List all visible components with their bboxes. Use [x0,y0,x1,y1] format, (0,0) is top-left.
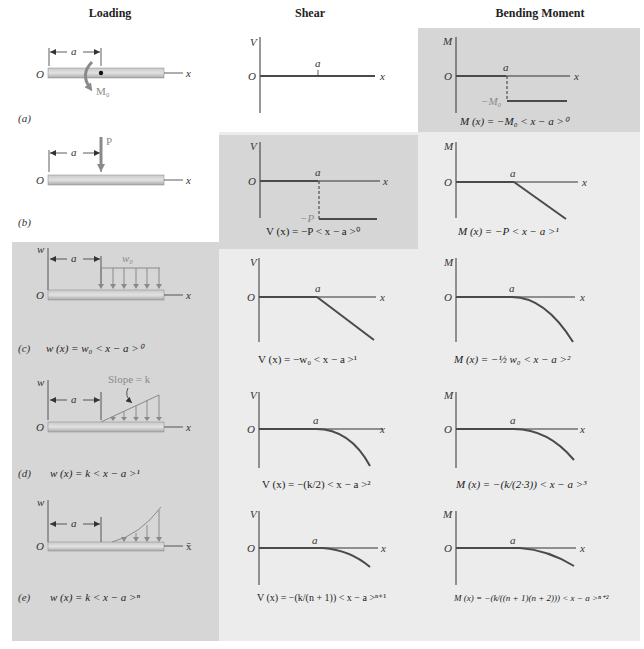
svg-text:a: a [510,167,516,179]
load-symbol-d: Slope = k [108,373,151,385]
loading-a: a x O M₀ (a) [18,45,191,125]
svg-text:M: M [442,35,453,47]
svg-text:M: M [442,508,453,520]
svg-text:w: w [37,243,45,255]
moment-plot-d: M O a x M (x) = −(k/(2·3)) < x − a >³ [443,389,587,491]
svg-text:V: V [250,256,258,268]
shear-plot-e: V O a x V (x) = −(k/(n + 1)) < x − a >ⁿ⁺… [247,508,386,604]
moment-eq-a: M (x) = −M₀ < x − a >⁰ [459,115,570,128]
moment-eq-b: M (x) = −P < x − a >¹ [457,225,559,238]
svg-text:O: O [247,423,255,435]
svg-text:V: V [250,508,258,520]
shear-eq-d: V (x) = −(k/2) < x − a >² [262,478,371,491]
svg-text:O: O [36,289,44,301]
shear-level-b: −P [300,212,314,224]
shear-plot-a: V O a x [248,36,385,113]
shear-eq-c: V (x) = −w₀ < x − a >¹ [258,353,357,366]
moment-plot-e: M O a x M (x) = −(k/((n + 1)(n + 2))) < … [442,508,609,603]
svg-text:x: x [581,176,587,188]
svg-text:M: M [443,389,454,401]
shear-eq-e: V (x) = −(k/(n + 1)) < x − a >ⁿ⁺¹ [257,592,386,604]
svg-text:x: x [379,291,385,303]
svg-text:x: x [185,174,191,186]
case-label-e: (e) [18,591,31,604]
svg-text:a: a [71,146,77,158]
svg-text:O: O [36,68,44,80]
x-bar-label: x̄ [186,540,192,552]
shear-plot-d: V O a x V (x) = −(k/2) < x − a >² [247,389,385,491]
svg-text:M: M [443,140,454,152]
svg-text:x: x [379,423,385,435]
svg-text:a: a [315,57,321,69]
svg-text:a: a [510,414,516,426]
svg-text:x: x [579,542,585,554]
svg-text:a: a [510,534,516,546]
load-symbol-c: w₀ [122,252,133,264]
shear-plot-b: V O a x −P V (x) = −P < x − a >⁰ [248,140,388,238]
svg-text:a: a [315,282,321,294]
svg-text:x: x [185,289,191,301]
loading-b: a P x O (b) [18,135,191,229]
svg-text:x: x [185,67,191,79]
svg-text:a: a [312,534,318,546]
case-label-a: (a) [18,112,31,125]
svg-text:x: x [579,423,585,435]
case-label-c: (c) [18,342,31,355]
case-label-d: (d) [18,467,31,480]
svg-text:x: x [380,542,386,554]
svg-text:O: O [444,542,452,554]
svg-text:O: O [247,291,255,303]
svg-text:O: O [247,542,255,554]
svg-text:O: O [444,70,452,82]
nonlinear-load-arrows-icon [124,510,159,541]
svg-text:V: V [250,36,258,48]
svg-text:O: O [444,423,452,435]
svg-text:O: O [36,421,44,433]
svg-text:x: x [379,70,385,82]
moment-plot-a: M O a x −M₀ M (x) = −M₀ < x − a >⁰ [442,35,579,128]
svg-text:V: V [250,389,258,401]
svg-text:V: V [250,140,258,152]
moment-eq-d: M (x) = −(k/(2·3)) < x − a >³ [455,478,587,491]
svg-text:O: O [36,174,44,186]
svg-text:a: a [313,414,319,426]
moment-eq-c: M (x) = −½ w₀ < x − a >² [453,353,571,366]
svg-text:a: a [509,282,515,294]
moment-level-a: −M₀ [481,95,502,107]
load-eq-d: w (x) = k < x − a >¹ [50,467,140,480]
shear-plot-c: V O a x V (x) = −w₀ < x − a >¹ [247,256,385,366]
loading-c: a w w₀ x O (c) w (x) = w₀ < x − a >⁰ [18,243,191,355]
svg-text:M: M [443,256,454,268]
load-eq-e: w (x) = k < x − a >ⁿ [50,591,141,604]
svg-text:O: O [36,540,44,552]
loading-d: a w Slope = k x O (d) w (x) = k < x − a … [18,373,191,480]
moment-plot-c: M O a x M (x) = −½ w₀ < x − a >² [443,256,585,366]
svg-text:a: a [315,166,321,178]
svg-text:a: a [503,61,509,73]
svg-text:x: x [185,421,191,433]
svg-text:a: a [71,517,77,529]
svg-text:w: w [37,376,45,388]
load-symbol-a: M₀ [96,85,110,97]
load-eq-c: w (x) = w₀ < x − a >⁰ [46,342,145,355]
svg-text:x: x [579,291,585,303]
distributed-load-arrows-icon [101,268,159,287]
moment-eq-e: M (x) = −(k/((n + 1)(n + 2))) < x − a >ⁿ… [453,593,609,603]
svg-text:w: w [37,496,45,508]
shear-eq-b: V (x) = −P < x − a >⁰ [266,225,361,238]
diagram-canvas: a x O M₀ (a) V O a x M O a x −M₀ M (x) =… [0,0,644,649]
svg-text:x: x [573,70,579,82]
case-label-b: (b) [18,216,31,229]
svg-text:a: a [71,393,77,405]
svg-text:O: O [248,175,256,187]
load-symbol-b: P [106,135,112,147]
svg-text:O: O [444,176,452,188]
loading-e: a w x̄ O (e) w (x) = k < x − a >ⁿ [18,496,192,604]
dim-a: a [71,45,77,57]
svg-text:a: a [71,252,77,264]
svg-text:x: x [382,175,388,187]
moment-plot-b: M O a x M (x) = −P < x − a >¹ [443,140,587,238]
svg-text:O: O [248,70,256,82]
svg-text:O: O [444,291,452,303]
